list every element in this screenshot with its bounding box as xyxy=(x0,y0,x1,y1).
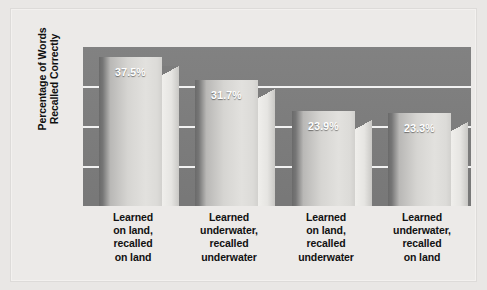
bar-3-face: 23.9% xyxy=(292,111,355,206)
y-axis-title: Percentage of Words Recalled Correctly xyxy=(32,0,66,164)
bar-2-value-label: 31.7% xyxy=(195,89,258,101)
bar-4[interactable]: 23.3% xyxy=(388,113,468,206)
bar-1-value-label: 37.5% xyxy=(99,66,162,78)
bar-1-side xyxy=(162,66,179,206)
category-label-4-line-1: Learned xyxy=(362,211,482,224)
bar-2-face: 31.7% xyxy=(195,80,258,206)
bar-2[interactable]: 31.7% xyxy=(195,80,275,206)
bar-4-face: 23.3% xyxy=(388,113,451,206)
chart-frame: Percentage of Words Recalled Correctly 4… xyxy=(10,8,477,282)
bar-4-value-label: 23.3% xyxy=(388,122,451,134)
bar-2-side xyxy=(258,89,275,206)
category-label-4-line-2: underwater, xyxy=(362,224,482,237)
category-label-4-line-3: recalled xyxy=(362,237,482,250)
bar-3-value-label: 23.9% xyxy=(292,120,355,132)
bar-1-face: 37.5% xyxy=(99,57,162,206)
figure: Percentage of Words Recalled Correctly 4… xyxy=(0,0,487,290)
category-label-4: Learned underwater, recalled on land xyxy=(362,211,482,264)
bar-4-side xyxy=(451,122,468,206)
y-axis-title-line-2: Recalled Correctly xyxy=(49,34,61,124)
plot-area: 37.5% 31.7% 23.9% 23.3% xyxy=(83,47,471,206)
bar-3-side xyxy=(355,120,372,206)
bar-1[interactable]: 37.5% xyxy=(99,57,179,206)
bar-3[interactable]: 23.9% xyxy=(292,111,372,206)
category-label-4-line-4: on land xyxy=(362,251,482,264)
